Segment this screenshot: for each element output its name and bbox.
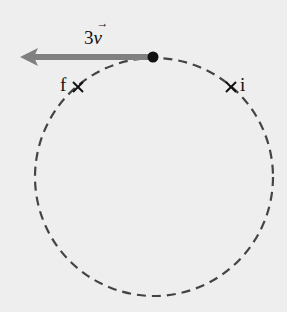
- velocity-label: 3v→: [84, 27, 102, 49]
- dashed-circular-path: [35, 58, 273, 296]
- point-f-marker: [73, 82, 83, 92]
- point-i-marker: [226, 82, 236, 92]
- diagram-canvas: [0, 0, 287, 312]
- particle-dot: [148, 52, 159, 63]
- vector-arrow-icon: →: [97, 16, 109, 31]
- point-f-label: f: [60, 74, 66, 96]
- velocity-symbol: v→: [94, 27, 102, 49]
- velocity-coefficient: 3: [84, 27, 94, 48]
- point-i-label: i: [240, 74, 245, 96]
